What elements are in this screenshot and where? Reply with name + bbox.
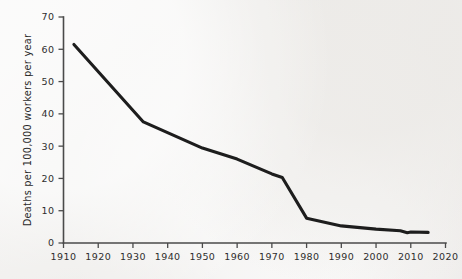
y-tick-label: 0 [48, 237, 54, 248]
y-tick-label: 60 [42, 44, 55, 55]
line-chart-plot: Deaths per 100,000 workers per year 0102… [0, 0, 462, 279]
y-axis-ticks: 010203040506070 [42, 11, 64, 248]
x-tick-label: 1970 [259, 251, 285, 262]
x-axis-ticks: 1910192019301940195019601970198019902000… [51, 243, 459, 262]
y-tick-label: 50 [42, 76, 55, 87]
y-tick-label: 30 [42, 141, 55, 152]
chart-figure: Deaths per 100,000 workers per year 0102… [0, 0, 462, 279]
y-axis-title: Deaths per 100,000 workers per year [22, 33, 33, 226]
x-tick-label: 1980 [294, 251, 320, 262]
x-tick-label: 2010 [398, 251, 424, 262]
y-tick-label: 70 [42, 11, 55, 22]
x-tick-label: 1950 [190, 251, 216, 262]
x-tick-label: 1910 [51, 251, 77, 262]
x-tick-label: 2020 [433, 251, 459, 262]
x-tick-label: 1990 [328, 251, 354, 262]
y-axis-title-group: Deaths per 100,000 workers per year [22, 33, 33, 226]
x-tick-label: 2000 [363, 251, 389, 262]
y-tick-label: 20 [42, 173, 55, 184]
y-tick-label: 40 [42, 108, 55, 119]
x-tick-label: 1940 [155, 251, 181, 262]
x-tick-label: 1960 [224, 251, 250, 262]
data-series-line [74, 44, 428, 232]
x-tick-label: 1930 [120, 251, 146, 262]
y-tick-label: 10 [42, 205, 55, 216]
x-tick-label: 1920 [85, 251, 111, 262]
